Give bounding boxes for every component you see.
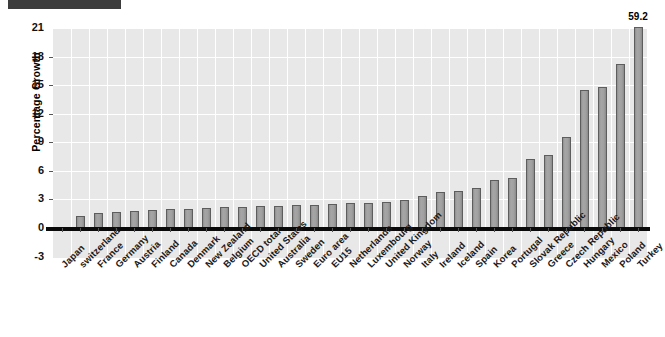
x-axis-tick-mark xyxy=(440,228,441,232)
y-axis-tick-label: -3 xyxy=(14,250,44,262)
x-axis-tick-mark xyxy=(98,228,99,232)
y-axis-tick-label: 3 xyxy=(14,192,44,204)
x-axis-tick-mark xyxy=(62,228,63,232)
y-axis-tick-label: 21 xyxy=(14,21,44,33)
x-axis-tick-mark xyxy=(494,228,495,232)
x-axis-tick-mark xyxy=(170,228,171,232)
y-axis-tick-label: 0 xyxy=(14,221,44,233)
y-axis-tick-mark xyxy=(49,57,53,58)
x-axis-tick-mark xyxy=(638,228,639,232)
x-axis-tick-mark xyxy=(458,228,459,232)
x-axis-tick-mark xyxy=(332,228,333,232)
x-axis-tick-mark xyxy=(350,228,351,232)
y-axis-tick-label: 15 xyxy=(14,78,44,90)
x-axis-tick-mark xyxy=(476,228,477,232)
x-axis-tick-mark xyxy=(584,228,585,232)
x-axis-tick-mark xyxy=(530,228,531,232)
x-axis-tick-mark xyxy=(548,228,549,232)
x-axis-tick-mark xyxy=(80,228,81,232)
x-axis-tick-mark xyxy=(134,228,135,232)
x-axis-tick-mark xyxy=(386,228,387,232)
x-axis-tick-mark xyxy=(242,228,243,232)
y-axis-tick-mark xyxy=(49,171,53,172)
x-axis-tick-mark xyxy=(602,228,603,232)
y-axis-tick-label: 12 xyxy=(14,107,44,119)
bar-value-label: 59.2 xyxy=(620,11,656,22)
x-axis-tick-mark xyxy=(512,228,513,232)
x-axis-tick-mark xyxy=(422,228,423,232)
x-axis-tick-mark xyxy=(152,228,153,232)
x-axis-tick-mark xyxy=(620,228,621,232)
x-axis-tick-mark xyxy=(278,228,279,232)
x-axis-tick-mark xyxy=(404,228,405,232)
x-axis-tick-mark xyxy=(566,228,567,232)
y-axis-tick-mark xyxy=(49,114,53,115)
y-axis-tick-mark xyxy=(49,85,53,86)
x-axis-tick-mark xyxy=(260,228,261,232)
y-axis-tick-label: 6 xyxy=(14,164,44,176)
x-axis-tick-mark xyxy=(116,228,117,232)
x-axis-tick-mark xyxy=(188,228,189,232)
x-axis-tick-mark xyxy=(206,228,207,232)
x-axis-tick-mark xyxy=(368,228,369,232)
x-axis-tick-mark xyxy=(314,228,315,232)
y-axis-tick-label: 18 xyxy=(14,50,44,62)
x-axis-tick-mark xyxy=(296,228,297,232)
y-axis-tick-label: 9 xyxy=(14,135,44,147)
y-axis-tick-mark xyxy=(49,142,53,143)
y-axis-tick-mark xyxy=(49,199,53,200)
x-axis-tick-mark xyxy=(224,228,225,232)
